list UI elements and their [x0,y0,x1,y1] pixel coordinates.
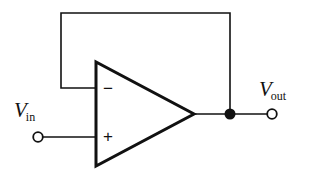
output-voltage-label: Vout [259,79,287,100]
output-terminal-icon [267,109,277,119]
input-voltage-subscript: in [26,110,35,124]
input-voltage-symbol: V [14,98,27,122]
noninverting-input-marker: + [103,128,113,145]
output-junction-dot-icon [225,109,236,120]
circuit-diagram: Vin Vout − + [0,0,320,179]
output-voltage-symbol: V [259,77,272,101]
inverting-input-marker: − [103,80,113,97]
input-voltage-label: Vin [14,100,36,121]
input-terminal-icon [33,132,43,142]
output-voltage-subscript: out [271,89,286,103]
opamp-triangle [96,62,194,166]
